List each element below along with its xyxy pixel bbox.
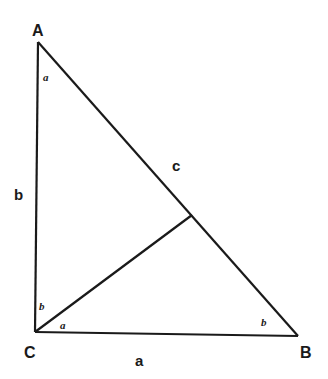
vertex-label-b: B <box>300 344 312 361</box>
altitude-line <box>35 215 192 332</box>
angle-label-at-c-lower: a <box>60 319 66 331</box>
side-b-line <box>35 42 38 332</box>
angle-label-at-c-upper: b <box>39 300 45 312</box>
side-a-line <box>35 332 298 336</box>
side-c-line <box>38 42 298 336</box>
side-label-b: b <box>14 186 23 203</box>
vertex-label-c: C <box>24 344 36 361</box>
angle-label-at-a: a <box>43 71 49 83</box>
side-label-a: a <box>135 352 144 369</box>
side-label-c: c <box>172 157 180 174</box>
triangle-diagram: A C B b c a a b a b <box>0 0 328 379</box>
angle-label-at-b: b <box>261 316 267 328</box>
vertex-label-a: A <box>32 22 44 39</box>
